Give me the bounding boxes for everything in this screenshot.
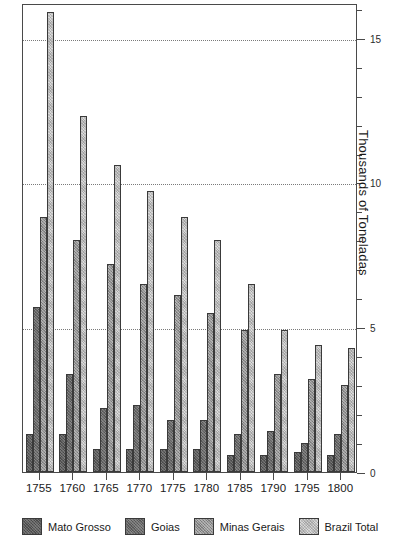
x-tick-1765 (106, 473, 107, 480)
bar-chart-figure: 051015 Thousands of Toneladas 1755176017… (0, 0, 408, 554)
x-tick-label-1760: 1760 (59, 482, 85, 494)
y-axis-title: Thousands of Toneladas (356, 130, 371, 350)
y-tick-label-0: 0 (370, 468, 376, 479)
y-minor-tick-4 (357, 357, 362, 358)
bar-mato-grosso-1770 (126, 449, 133, 472)
chart-legend: Mato GrossoGoiasMinas GeraisBrazil Total (22, 518, 382, 535)
bar-minas-gerais-1760 (73, 240, 80, 472)
bar-mato-grosso-1800 (327, 455, 334, 472)
bar-mato-grosso-1780 (193, 449, 200, 472)
y-minor-tick-2 (357, 415, 362, 416)
x-tick-label-1785: 1785 (227, 482, 253, 494)
x-tick-1775 (173, 473, 174, 480)
bar-minas-gerais-1770 (140, 284, 147, 472)
x-tick-1785 (240, 473, 241, 480)
bar-group-1785 (227, 5, 255, 472)
bar-brazil-total-1755 (47, 12, 54, 472)
y-minor-tick-3 (357, 386, 362, 387)
bars-layer (23, 5, 356, 472)
y-minor-tick-13 (357, 97, 362, 98)
bar-group-1775 (160, 5, 188, 472)
y-minor-tick-14 (357, 68, 362, 69)
x-tick-1780 (206, 473, 207, 480)
bar-minas-gerais-1785 (241, 330, 248, 472)
bar-brazil-total-1780 (214, 240, 221, 472)
bar-group-1780 (193, 5, 221, 472)
bar-goias-1780 (200, 420, 207, 472)
bar-goias-1775 (167, 420, 174, 472)
legend-label: Minas Gerais (220, 521, 285, 533)
legend-swatch-icon-3 (299, 518, 319, 535)
x-tick-1760 (72, 473, 73, 480)
bar-brazil-total-1790 (281, 330, 288, 472)
bar-mato-grosso-1785 (227, 455, 234, 472)
bar-goias-1795 (301, 443, 308, 472)
bar-group-1760 (59, 5, 87, 472)
x-tick-label-1790: 1790 (260, 482, 286, 494)
x-tick-label-1755: 1755 (26, 482, 52, 494)
y-minor-tick-1 (357, 444, 362, 445)
y-tick-0 (357, 473, 365, 474)
bar-mato-grosso-1795 (294, 452, 301, 472)
bar-goias-1785 (234, 434, 241, 472)
x-axis: 1755176017651770177517801785179017951800 (22, 473, 357, 499)
bar-minas-gerais-1780 (207, 313, 214, 472)
bar-group-1795 (294, 5, 322, 472)
x-tick-1795 (307, 473, 308, 480)
bar-brazil-total-1800 (348, 348, 355, 472)
bar-brazil-total-1765 (114, 165, 121, 472)
legend-swatch-icon-1 (125, 518, 145, 535)
legend-item-mato-grosso[interactable]: Mato Grosso (22, 518, 111, 535)
legend-swatch-icon-0 (22, 518, 42, 535)
legend-label: Brazil Total (325, 521, 379, 533)
legend-item-minas-gerais[interactable]: Minas Gerais (194, 518, 285, 535)
x-tick-1790 (273, 473, 274, 480)
bar-mato-grosso-1760 (59, 434, 66, 472)
x-tick-label-1795: 1795 (294, 482, 320, 494)
y-tick-15 (357, 39, 365, 40)
legend-swatch-icon-2 (194, 518, 214, 535)
bar-minas-gerais-1775 (174, 295, 181, 472)
x-tick-label-1800: 1800 (327, 482, 353, 494)
bar-goias-1760 (66, 374, 73, 472)
legend-item-goias[interactable]: Goias (125, 518, 180, 535)
bar-mato-grosso-1775 (160, 449, 167, 472)
bar-minas-gerais-1790 (274, 374, 281, 472)
legend-item-brazil-total[interactable]: Brazil Total (299, 518, 379, 535)
bar-brazil-total-1785 (248, 284, 255, 472)
legend-label: Goias (151, 521, 180, 533)
bar-mato-grosso-1790 (260, 455, 267, 472)
bar-goias-1800 (334, 434, 341, 472)
x-tick-label-1770: 1770 (126, 482, 152, 494)
x-tick-1770 (139, 473, 140, 480)
y-tick-label-15: 15 (370, 33, 381, 44)
y-minor-tick-12 (357, 126, 362, 127)
bar-goias-1790 (267, 431, 274, 472)
bar-group-1770 (126, 5, 154, 472)
bar-group-1790 (260, 5, 288, 472)
bar-minas-gerais-1800 (341, 385, 348, 472)
legend-label: Mato Grosso (48, 521, 111, 533)
x-tick-label-1775: 1775 (160, 482, 186, 494)
bar-group-1800 (327, 5, 355, 472)
bar-brazil-total-1795 (315, 345, 322, 472)
plot-area (22, 4, 357, 473)
bar-goias-1770 (133, 405, 140, 472)
bar-minas-gerais-1755 (40, 217, 47, 472)
bar-group-1755 (26, 5, 54, 472)
bar-brazil-total-1760 (80, 116, 87, 472)
y-tick-label-10: 10 (370, 178, 381, 189)
bar-minas-gerais-1765 (107, 264, 114, 472)
y-minor-tick-16 (357, 10, 362, 11)
bar-brazil-total-1770 (147, 191, 154, 472)
bar-goias-1755 (33, 307, 40, 472)
x-tick-label-1780: 1780 (193, 482, 219, 494)
x-tick-1800 (340, 473, 341, 480)
bar-brazil-total-1775 (181, 217, 188, 472)
bar-group-1765 (93, 5, 121, 472)
bar-mato-grosso-1765 (93, 449, 100, 472)
x-tick-label-1765: 1765 (93, 482, 119, 494)
x-tick-1755 (39, 473, 40, 480)
bar-mato-grosso-1755 (26, 434, 33, 472)
bar-goias-1765 (100, 408, 107, 472)
